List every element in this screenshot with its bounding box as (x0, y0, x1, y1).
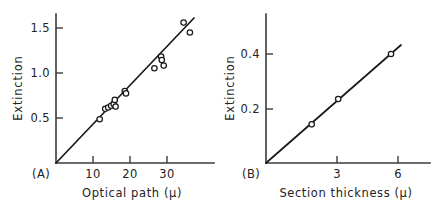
panel-b-ylabel: Extinction (223, 55, 237, 120)
panel-a-xtick-label-3: 30 (159, 167, 174, 181)
panel-b-xtick-label-1: 3 (333, 167, 341, 181)
panel-a-tag: (A) (32, 167, 50, 181)
data-point (159, 57, 164, 62)
data-point (112, 97, 117, 102)
panel-a-plot: 1.5 1.0 0.5 10 20 30 (A) Optical path (μ… (0, 0, 220, 216)
chart-panel-a: 1.5 1.0 0.5 10 20 30 (A) Optical path (μ… (0, 0, 220, 216)
panel-a-ytick-label-1: 1.5 (31, 21, 51, 35)
data-point (97, 117, 102, 122)
data-point (336, 96, 341, 101)
panel-a-xtick-label-1: 10 (85, 167, 100, 181)
data-point (181, 20, 186, 25)
figure-container: 1.5 1.0 0.5 10 20 30 (A) Optical path (μ… (0, 0, 441, 216)
panel-b-tag: (B) (242, 167, 260, 181)
data-point (388, 51, 393, 56)
chart-panel-b: 0.4 0.2 3 6 (B) Section thickness (μ) Ex… (220, 0, 441, 216)
panel-a-xlabel: Optical path (μ) (82, 186, 182, 200)
panel-b-xtick-label-2: 6 (394, 167, 402, 181)
panel-a-ytick-label-3: 0.5 (31, 111, 51, 125)
panel-a-ytick-label-2: 1.0 (31, 66, 51, 80)
panel-b-plot: 0.4 0.2 3 6 (B) Section thickness (μ) Ex… (220, 0, 441, 216)
data-point (152, 66, 157, 71)
panel-a-ylabel: Extinction (11, 55, 25, 120)
panel-b-ytick-label-2: 0.2 (241, 102, 261, 116)
panel-a-xtick-label-2: 20 (122, 167, 137, 181)
panel-b-xlabel: Section thickness (μ) (279, 186, 412, 200)
panel-b-ytick-label-1: 0.4 (241, 47, 261, 61)
data-point (123, 91, 128, 96)
data-point (113, 104, 118, 109)
data-point (309, 122, 314, 127)
data-point (161, 63, 166, 68)
data-point (187, 30, 192, 35)
panel-b-fit-line (266, 45, 401, 163)
